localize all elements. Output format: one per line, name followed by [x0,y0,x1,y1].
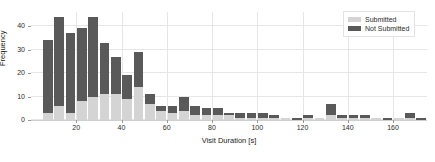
legend-swatch-not-submitted [348,26,361,31]
bar-stack [122,75,132,120]
legend-swatch-submitted [348,17,361,22]
bar-segment-not-submitted [202,108,212,115]
x-axis-spine [31,120,427,121]
x-tick-mark-80 [212,120,213,123]
x-tick-label-40: 40 [118,124,126,131]
bar-stack [247,113,257,120]
bar-segment-not-submitted [190,106,200,115]
bar-segment-submitted [134,87,144,120]
bar-segment-submitted [100,94,110,120]
legend-label-not-submitted: Not Submitted [365,24,409,33]
y-tick-mark-20 [28,73,31,74]
x-tick-label-100: 100 [251,124,263,131]
x-tick-mark-60 [167,120,168,123]
y-tick-mark-0 [28,120,31,121]
bar-stack [179,97,189,120]
x-tick-label-120: 120 [297,124,309,131]
bar-segment-submitted [168,113,178,120]
gridline-x-80 [212,12,213,120]
bar-segment-not-submitted [54,17,64,106]
bar-segment-not-submitted [88,17,98,97]
bar-stack [54,17,64,120]
bar-segment-not-submitted [43,40,53,113]
histogram-figure: 010203040 20406080100120140160 Frequency… [0,0,435,162]
bar-segment-submitted [54,106,64,120]
bar-stack [77,28,87,120]
x-tick-mark-160 [393,120,394,123]
y-tick-label-20: 20 [9,69,25,77]
bar-stack [156,106,166,120]
bar-stack [190,106,200,120]
bar-segment-not-submitted [122,75,132,98]
bar-stack [235,113,245,120]
x-tick-label-140: 140 [342,124,354,131]
gridline-x-120 [303,12,304,120]
bar-segment-submitted [88,97,98,120]
bar-segment-submitted [156,111,166,120]
y-tick-label-10: 10 [9,93,25,101]
gridline-x-100 [257,12,258,120]
bar-segment-not-submitted [213,108,223,115]
y-tick-mark-30 [28,50,31,51]
bar-segment-not-submitted [326,104,336,116]
x-axis-label: Visit Duration [s] [202,136,256,145]
x-tick-label-160: 160 [387,124,399,131]
bar-segment-not-submitted [179,97,189,111]
x-tick-mark-40 [122,120,123,123]
bar-stack [43,40,53,120]
legend-label-submitted: Submitted [365,15,397,24]
legend-item-submitted: Submitted [348,15,409,24]
legend-item-not-submitted: Not Submitted [348,24,409,33]
x-tick-label-80: 80 [208,124,216,131]
bar-segment-not-submitted [168,106,178,113]
y-tick-label-30: 30 [9,46,25,54]
bar-segment-submitted [145,104,155,120]
bar-stack [405,113,415,120]
bar-segment-submitted [43,113,53,120]
y-tick-label-0: 0 [9,116,25,124]
x-tick-mark-120 [303,120,304,123]
y-tick-mark-40 [28,26,31,27]
x-tick-label-20: 20 [72,124,80,131]
x-tick-mark-140 [348,120,349,123]
bar-stack [326,104,336,120]
bar-stack [168,106,178,120]
bar-segment-not-submitted [134,52,144,87]
legend: Submitted Not Submitted [343,11,415,37]
bar-segment-not-submitted [77,28,87,101]
y-axis-label: Frequency [0,31,7,66]
bar-stack [88,17,98,120]
x-tick-label-60: 60 [163,124,171,131]
bar-stack [258,113,268,120]
bar-segment-submitted [179,111,189,120]
bar-stack [213,108,223,120]
bar-segment-submitted [122,99,132,120]
bar-stack [134,52,144,120]
bar-segment-submitted [66,113,76,120]
bar-segment-submitted [111,94,121,120]
bar-stack [145,94,155,120]
bar-stack [100,43,110,120]
bar-segment-not-submitted [111,57,121,95]
bar-segment-submitted [77,101,87,120]
bar-stack [224,113,234,120]
bar-stack [202,108,212,120]
y-tick-label-40: 40 [9,22,25,30]
gridline-x-60 [167,12,168,120]
bar-stack [111,57,121,120]
bar-segment-not-submitted [145,94,155,103]
x-tick-mark-20 [76,120,77,123]
bar-segment-not-submitted [66,33,76,113]
bar-segment-not-submitted [100,43,110,95]
x-tick-mark-100 [257,120,258,123]
y-tick-mark-10 [28,97,31,98]
bar-stack [66,33,76,120]
